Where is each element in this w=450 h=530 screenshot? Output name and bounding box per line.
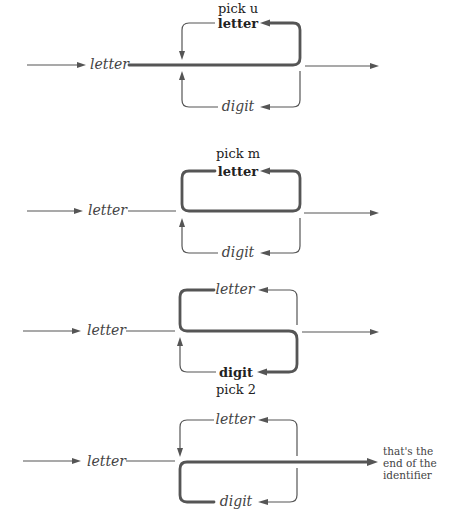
- arrow-head-icon: [179, 218, 185, 227]
- exit-note-line-3: identifier: [383, 469, 433, 481]
- loop-bottom-line: [268, 468, 297, 502]
- arrow-head-icon: [258, 417, 268, 423]
- loop-bottom-return: [182, 80, 218, 107]
- arrow-head-icon: [258, 499, 268, 505]
- entry-label: letter: [87, 322, 127, 338]
- highlighted-path: [129, 23, 300, 65]
- arrow-head-icon: [260, 104, 270, 110]
- entry-label: letter: [88, 202, 128, 218]
- highlighted-path: [180, 290, 297, 372]
- exit-note-line-2: end of the: [383, 457, 437, 469]
- arrow-head-icon: [260, 20, 270, 27]
- pick-label: pick u: [218, 1, 258, 16]
- arrow-head-icon: [257, 369, 267, 376]
- entry-label: letter: [90, 56, 130, 72]
- arrow-head-icon: [177, 448, 183, 457]
- highlighted-path: [180, 462, 368, 502]
- arrow-head-icon: [179, 71, 185, 80]
- loop-bottom-line: [270, 71, 300, 107]
- loop-top-label: letter: [216, 411, 256, 427]
- arrow-head-icon: [72, 458, 81, 464]
- loop-top-line: [268, 290, 297, 325]
- arrow-head-icon: [260, 250, 270, 256]
- pick-label: pick m: [216, 146, 260, 161]
- syntax-diagram-canvas: pick u letter letter digit pick m letter…: [0, 0, 450, 530]
- entry-label: letter: [87, 453, 127, 469]
- arrow-head-icon: [77, 62, 86, 68]
- loop-top-line: [268, 420, 297, 456]
- loop-bottom-label: digit: [222, 244, 255, 260]
- arrow-head-icon: [370, 329, 379, 335]
- loop-top-label: letter: [216, 281, 256, 297]
- loop-bottom-label: digit: [220, 493, 253, 509]
- loop-bottom-label: digit: [219, 365, 253, 380]
- diagram-step-3: letter letter digit pick 2: [23, 281, 379, 397]
- arrow-head-icon: [260, 168, 270, 175]
- arrow-head-icon: [258, 287, 268, 293]
- loop-bottom-return: [180, 346, 216, 372]
- arrow-head-icon: [179, 51, 185, 60]
- loop-top-return: [182, 23, 215, 52]
- arrow-head-icon: [74, 208, 83, 214]
- exit-note-line-1: that's the: [383, 445, 433, 457]
- arrow-head-icon: [367, 458, 378, 466]
- loop-top-label: letter: [218, 16, 258, 31]
- loop-bottom-return: [182, 226, 218, 253]
- arrow-head-icon: [177, 337, 183, 346]
- loop-bottom-label: digit: [222, 98, 255, 114]
- arrow-head-icon: [370, 210, 379, 216]
- arrow-head-icon: [72, 328, 81, 334]
- diagram-step-1: pick u letter letter digit: [27, 1, 379, 114]
- loop-top-return: [180, 420, 214, 448]
- pick-label: pick 2: [216, 382, 256, 397]
- arrow-head-icon: [370, 63, 379, 69]
- diagram-step-4: letter letter digit that's the end of th…: [23, 411, 437, 509]
- diagram-step-2: pick m letter letter digit: [27, 146, 379, 260]
- loop-top-label: letter: [218, 164, 258, 179]
- loop-bottom-line: [270, 218, 300, 253]
